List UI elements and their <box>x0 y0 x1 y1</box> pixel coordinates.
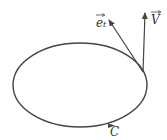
et-subscript: t <box>103 20 106 29</box>
vector-v <box>143 13 145 72</box>
closed-curve-c <box>13 43 147 127</box>
diagram-canvas <box>0 0 167 140</box>
tangent-vector-et <box>109 20 143 72</box>
label-et: et <box>96 17 106 29</box>
label-c: C <box>110 126 119 138</box>
label-v: V <box>151 14 160 26</box>
